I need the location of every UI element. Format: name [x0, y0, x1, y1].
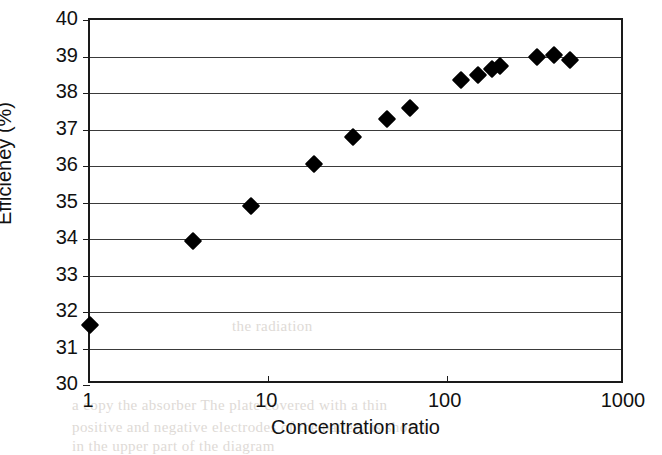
y-tick-mark-40: [83, 20, 90, 21]
data-point: [242, 197, 260, 215]
data-point: [528, 47, 546, 65]
y-tick-mark-30: [83, 385, 90, 386]
x-tick-label-1000: 1000: [583, 390, 662, 410]
gridline-y-33: [90, 276, 621, 277]
x-axis-title: Concentration ratio: [88, 416, 623, 439]
y-tick-mark-34: [83, 239, 90, 240]
data-point: [545, 45, 563, 63]
data-point: [452, 71, 470, 89]
y-tick-mark-35: [83, 203, 90, 204]
plot-area: [88, 18, 623, 383]
gridline-y-32: [90, 312, 621, 313]
y-tick-mark-38: [83, 93, 90, 94]
y-tick-label-32: 32: [22, 300, 78, 320]
gridline-y-36: [90, 166, 621, 167]
y-tick-mark-33: [83, 276, 90, 277]
y-tick-label-34: 34: [22, 227, 78, 247]
y-tick-label-37: 37: [22, 118, 78, 138]
y-tick-label-35: 35: [22, 191, 78, 211]
bleed-through-line: in the upper part of the diagram: [72, 438, 275, 455]
data-point: [305, 155, 323, 173]
y-tick-label-36: 36: [22, 154, 78, 174]
data-point: [561, 51, 579, 69]
x-tick-label-100: 100: [405, 390, 485, 410]
y-tick-label-33: 33: [22, 264, 78, 284]
y-tick-mark-37: [83, 130, 90, 131]
y-tick-mark-39: [83, 57, 90, 58]
y-tick-mark-32: [83, 312, 90, 313]
gridline-y-38: [90, 93, 621, 94]
data-point: [81, 316, 99, 334]
y-tick-mark-31: [83, 349, 90, 350]
data-point: [377, 109, 395, 127]
x-tick-label-1: 1: [48, 390, 128, 410]
gridline-y-34: [90, 239, 621, 240]
x-tick-mark-10: [268, 376, 269, 383]
data-point: [400, 98, 418, 116]
y-tick-label-40: 40: [22, 8, 78, 28]
y-tick-mark-36: [83, 166, 90, 167]
x-tick-mark-100: [447, 376, 448, 383]
gridline-y-31: [90, 349, 621, 350]
y-tick-label-38: 38: [22, 81, 78, 101]
data-point: [184, 232, 202, 250]
gridline-y-35: [90, 203, 621, 204]
y-tick-label-31: 31: [22, 337, 78, 357]
y-tick-label-39: 39: [22, 45, 78, 65]
y-axis-title: Efficieney (%): [0, 34, 16, 294]
x-tick-label-10: 10: [226, 390, 306, 410]
